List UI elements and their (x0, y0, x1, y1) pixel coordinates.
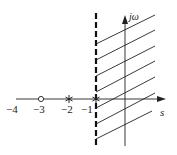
tick-label-neg4: −4 (6, 103, 18, 115)
tick-label-neg3: −3 (33, 103, 45, 115)
hatched-region (96, 15, 155, 139)
s-plane-svg: s jω −4 −3 −2 −1 (0, 0, 177, 155)
tick-label-neg1: −1 (81, 103, 93, 115)
real-axis-label: s (160, 106, 164, 118)
zero-marker-circle-icon (38, 96, 43, 101)
imag-axis (122, 15, 128, 146)
tick-label-neg2: −2 (61, 103, 73, 115)
imag-axis-label: jω (127, 11, 139, 22)
s-plane-diagram: s jω −4 −3 −2 −1 (0, 0, 177, 155)
